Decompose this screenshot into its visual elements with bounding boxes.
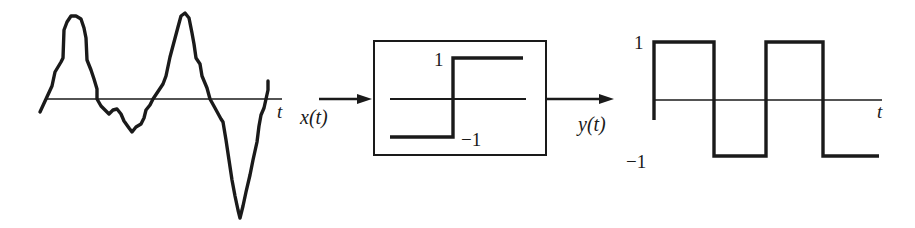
output-signal-label: y(t) [576, 113, 606, 136]
input-arrow: x(t) [299, 94, 372, 129]
input-waveform [40, 13, 268, 218]
input-signal-label: x(t) [299, 106, 328, 129]
diagram-canvas: t x(t) 1 −1 y(t) 1 −1 t [0, 0, 915, 228]
block-lower-level-label: −1 [461, 129, 481, 150]
diagram-svg: t x(t) 1 −1 y(t) 1 −1 t [0, 0, 915, 228]
arrowhead-icon [599, 94, 614, 104]
sign-block: 1 −1 [374, 41, 546, 155]
block-upper-level-label: 1 [434, 49, 444, 70]
output-square-wave [654, 42, 879, 156]
input-axis-label: t [277, 101, 283, 122]
sign-function-curve [390, 58, 523, 137]
output-axis-label: t [877, 101, 883, 122]
input-plot: t [40, 13, 283, 218]
arrowhead-icon [357, 94, 372, 104]
output-plot: 1 −1 t [626, 32, 883, 172]
output-low-label: −1 [626, 151, 646, 172]
output-arrow: y(t) [546, 94, 614, 136]
output-high-label: 1 [634, 32, 644, 53]
